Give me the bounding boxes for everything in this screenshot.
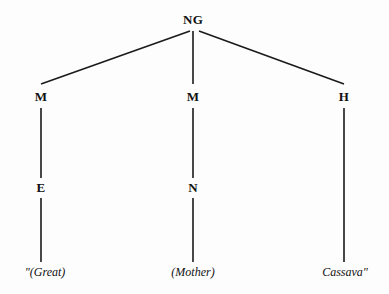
edge-root-right: [199, 31, 344, 84]
tree-node-mid2: N: [188, 180, 198, 196]
tree-node-right1: H: [339, 89, 349, 105]
tree-node-left2: E: [37, 180, 46, 196]
tree-node-root: NG: [183, 12, 203, 28]
gloss-right: Cassava": [322, 265, 368, 280]
tree-diagram-figure: NGMMHEN "(Great)(Mother)Cassava": [0, 0, 389, 294]
tree-edges: [0, 0, 389, 294]
gloss-left: "(Great): [25, 265, 66, 280]
gloss-mid: (Mother): [171, 265, 214, 280]
tree-node-mid1: M: [187, 89, 200, 105]
edge-root-left: [41, 31, 190, 84]
tree-node-left1: M: [35, 89, 48, 105]
